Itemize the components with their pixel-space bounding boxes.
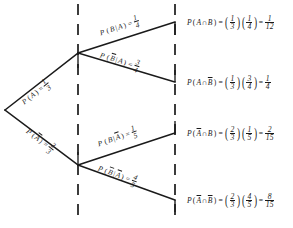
equation-a-bar-and-b-bar: P(A∩B)=(23)(45)=815 bbox=[187, 193, 275, 209]
equation-a-and-b-bar: P(A∩B)=(13)(34)=14 bbox=[187, 75, 271, 91]
equation-a-and-b: P(A∩B)=(13)(14)=112 bbox=[187, 15, 275, 31]
equation-a-bar-and-b: P(A∩B)=(23)(15)=215 bbox=[187, 126, 275, 142]
probability-tree-diagram: P(A)=13 P(A)=23 P(B|A)=14 P(B|A)=34 P(B|… bbox=[0, 0, 293, 228]
